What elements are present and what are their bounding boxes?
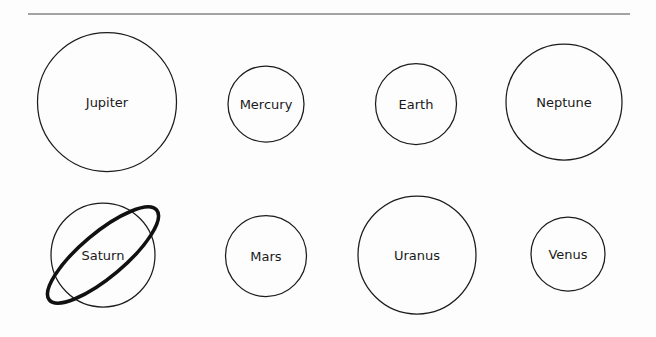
planet-label-neptune: Neptune (536, 95, 592, 110)
planet-venus[interactable]: Venus (531, 217, 605, 291)
planet-label-mars: Mars (250, 249, 282, 264)
planet-earth[interactable]: Earth (376, 64, 457, 145)
planet-uranus[interactable]: Uranus (358, 196, 476, 314)
planet-label-uranus: Uranus (394, 248, 440, 263)
planet-label-venus: Venus (548, 247, 587, 262)
planet-mercury[interactable]: Mercury (228, 66, 304, 142)
planet-size-diagram: JupiterMercuryEarthNeptuneSaturnMarsUran… (0, 0, 656, 337)
planet-label-jupiter: Jupiter (85, 95, 129, 110)
planet-label-earth: Earth (399, 97, 434, 112)
planet-label-mercury: Mercury (240, 97, 293, 112)
planet-mars[interactable]: Mars (226, 216, 307, 297)
planet-neptune[interactable]: Neptune (506, 44, 622, 160)
planet-label-saturn: Saturn (82, 248, 125, 263)
planet-jupiter[interactable]: Jupiter (38, 33, 177, 172)
